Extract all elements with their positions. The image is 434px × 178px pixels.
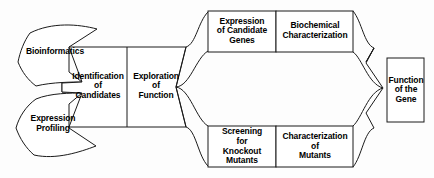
shape-characterization-of-mutants — [276, 126, 353, 167]
shape-screening-for-knockout-mutants — [208, 126, 276, 167]
connector-lower-converge-inner — [353, 88, 383, 126]
flow-diagram-canvas — [0, 0, 434, 178]
connector-upper-converge — [353, 11, 374, 48]
gene-function-flow-diagram: Bioinformatics Expression Profiling Iden… — [0, 0, 434, 178]
shape-function-of-the-gene — [387, 58, 424, 122]
shape-biochemical-characterization — [276, 11, 353, 52]
connector-upper-converge-inner — [353, 52, 383, 88]
connector-lower-converge — [353, 128, 374, 167]
shape-expression-of-candidate-genes — [208, 11, 276, 52]
connector-lower-branch — [186, 127, 208, 166]
shape-pipeline-band — [62, 47, 186, 127]
connector-upper-branch — [186, 12, 208, 47]
output-arrowhead-notch — [366, 48, 383, 128]
